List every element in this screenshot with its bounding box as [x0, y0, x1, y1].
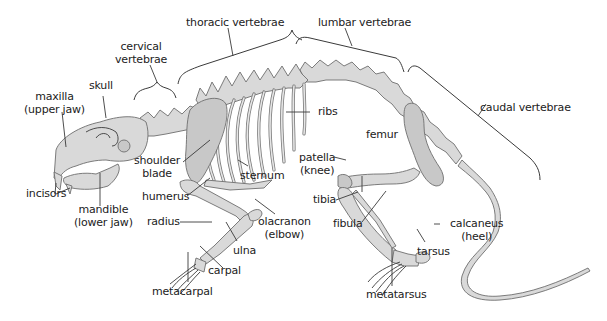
label-calcaneus-line2: (heel) — [450, 230, 503, 243]
label-calcaneus: calcaneus (heel) — [450, 217, 503, 243]
label-mandible-line1: mandible — [74, 203, 133, 216]
label-tarsus: tarsus — [417, 245, 450, 258]
label-cervical-line2: vertebrae — [115, 53, 167, 66]
label-sternum: sternum — [240, 169, 284, 182]
label-femur: femur — [366, 128, 398, 141]
label-metacarpal: metacarpal — [152, 285, 213, 298]
label-ulna: ulna — [233, 244, 256, 257]
cervical-brace — [134, 82, 176, 100]
label-shoulder-blade: shoulder blade — [134, 154, 180, 180]
label-mandible-line2: (lower jaw) — [74, 216, 133, 229]
label-shoulder-blade-line2: blade — [134, 167, 180, 180]
label-radius: radius — [147, 215, 180, 228]
label-thoracic-vertebrae: thoracic vertebrae — [186, 16, 284, 29]
label-cervical-vertebrae: cervical vertebrae — [115, 40, 167, 66]
eye-socket — [118, 140, 130, 152]
label-calcaneus-line1: calcaneus — [450, 217, 503, 230]
label-fibula: fibula — [333, 217, 362, 230]
label-humerus: humerus — [142, 190, 189, 203]
label-mandible: mandible (lower jaw) — [74, 203, 133, 229]
label-metatarsus: metatarsus — [366, 288, 427, 301]
label-tibia: tibia — [313, 193, 336, 206]
label-incisors: incisors — [26, 187, 66, 200]
label-lumbar-vertebrae: lumbar vertebrae — [318, 16, 411, 29]
label-caudal-vertebrae: caudal vertebrae — [480, 101, 571, 114]
label-carpal: carpal — [208, 264, 241, 277]
label-cervical-line1: cervical — [115, 40, 167, 53]
label-olacranon-line2: (elbow) — [258, 228, 311, 241]
label-patella-line2: (knee) — [299, 164, 335, 177]
label-shoulder-blade-line1: shoulder — [134, 154, 180, 167]
label-ribs: ribs — [318, 105, 338, 118]
label-maxilla: maxilla (upper jaw) — [24, 90, 85, 116]
label-skull: skull — [89, 79, 113, 92]
label-patella-line1: patella — [299, 151, 335, 164]
label-patella: patella (knee) — [299, 151, 335, 177]
label-olacranon-line1: olacranon — [258, 215, 311, 228]
rat-skeleton-diagram: cervical vertebrae thoracic vertebrae lu… — [0, 0, 607, 321]
label-maxilla-line2: (upper jaw) — [24, 103, 85, 116]
label-maxilla-line1: maxilla — [24, 90, 85, 103]
label-olacranon: olacranon (elbow) — [258, 215, 311, 241]
